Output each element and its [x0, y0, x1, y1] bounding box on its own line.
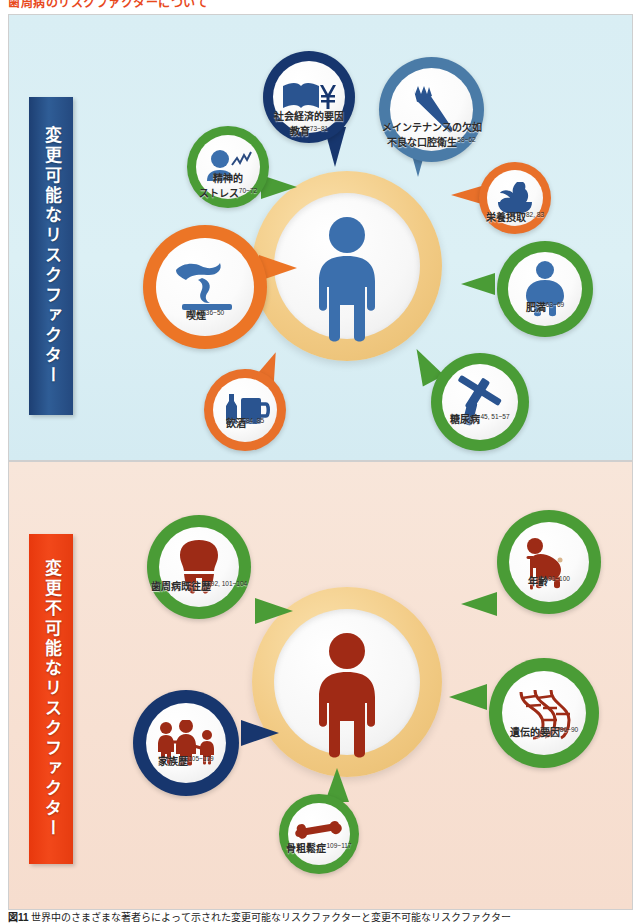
toothbrush-icon: [403, 81, 461, 139]
infographic-page: 歯周病のリスクファクターについて 変更可能なリスクファクター 社会経済的要因: [0, 0, 641, 924]
tooth-icon: [174, 538, 224, 596]
person-figure-modifiable: [307, 215, 387, 345]
obese-person-icon: [522, 260, 568, 318]
bone-icon: [294, 820, 344, 848]
bubble-osteoporosis[interactable]: 骨粗鬆症109~117: [279, 794, 359, 874]
bubble-alcohol[interactable]: 飲酒84, 85: [204, 369, 286, 451]
dna-icon: [513, 686, 575, 740]
top-heading: 歯周病のリスクファクターについて: [8, 0, 428, 10]
bubble-socioeconomic[interactable]: 社会経済的要因 教育73~81: [263, 51, 355, 143]
sidebar-label-modifiable: 変更可能なリスクファクター: [29, 97, 73, 415]
pointer-genetic: [449, 684, 487, 710]
family-icon: [155, 720, 217, 766]
pointer-obesity: [461, 273, 495, 295]
book-yen-icon: [281, 80, 337, 114]
bubble-stress[interactable]: 精神的 ストレス70~72: [187, 126, 269, 208]
bubble-obesity[interactable]: 肥満63~69: [497, 241, 593, 337]
pointer-periodontal-history: [255, 598, 293, 624]
syringe-icon: [451, 375, 509, 429]
panel-non-modifiable: 変更不可能なリスクファクター 歯周病既往歴92, 101~104: [8, 461, 633, 910]
bubble-maintenance[interactable]: メインテナンスの欠如 不良な口腔衛生58~62: [379, 57, 484, 162]
vegetable-bowl-icon: [493, 180, 537, 216]
cigarette-smoke-icon: [168, 256, 242, 318]
elderly-person-icon: [521, 534, 577, 590]
bubble-nutrition[interactable]: 栄養摂取82, 83: [479, 162, 551, 234]
figure-caption-text: 世界中のさまざまな著者らによって示された変更可能なリスクファクターと変更不可能な…: [31, 912, 511, 923]
figure-caption: 図11 世界中のさまざまな著者らによって示された変更可能なリスクファクターと変更…: [8, 911, 633, 924]
figure-number: 図11: [8, 912, 29, 923]
bubble-family-history[interactable]: 家族歴105~109: [133, 690, 239, 796]
stress-person-icon: [202, 147, 254, 187]
pointer-age: [461, 592, 497, 616]
bubble-genetic[interactable]: 遺伝的要因86~90: [489, 658, 599, 768]
pointer-family-history: [241, 720, 279, 746]
panel-modifiable: 変更可能なリスクファクター 社会経済的要因 教育73~81: [8, 14, 633, 461]
bubble-age[interactable]: 年齢91~100: [497, 510, 601, 614]
bubble-smoking[interactable]: 喫煙36~50: [143, 225, 267, 349]
person-figure-non-modifiable: [307, 631, 387, 761]
sidebar-label-non-modifiable: 変更不可能なリスクファクター: [29, 534, 73, 864]
sake-bottle-mug-icon: [220, 390, 270, 430]
bubble-periodontal-history[interactable]: 歯周病既往歴92, 101~104: [147, 515, 251, 619]
bubble-diabetes[interactable]: 糖尿病45, 51~57: [431, 353, 529, 451]
